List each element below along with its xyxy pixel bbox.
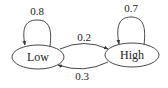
markov-chain-diagram: 0.8 0.7 0.2 0.3 Low High [0,0,168,88]
edge-label-low-low: 0.8 [30,5,44,17]
edge-high-to-high: 0.7 [118,2,145,45]
edge-label-high-high: 0.7 [124,2,138,14]
self-loop-arrow-icon [24,20,51,46]
edge-low-to-high: 0.2 [60,31,108,49]
node-label-high: High [120,48,144,62]
edge-high-to-low: 0.3 [58,62,108,82]
node-low: Low [12,45,64,69]
transition-arrow-icon [60,44,108,50]
transition-arrow-icon [58,62,108,69]
edge-label-low-high: 0.2 [77,31,91,43]
self-loop-arrow-icon [118,17,145,45]
edge-low-to-low: 0.8 [24,5,51,46]
node-high: High [105,43,159,67]
edge-label-high-low: 0.3 [75,70,89,82]
node-label-low: Low [27,50,49,64]
